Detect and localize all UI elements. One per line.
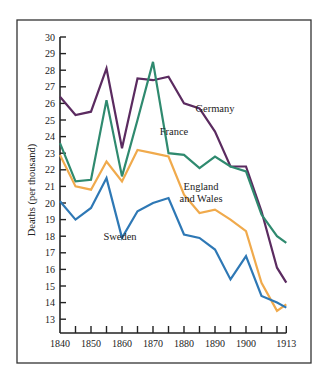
series-label-sweden: Sweden xyxy=(103,231,137,242)
x-tick-label: 1900 xyxy=(236,338,256,349)
series-label-france: France xyxy=(160,126,189,137)
series-label-england-and-wales: and Wales xyxy=(180,193,223,204)
x-tick-label: 1850 xyxy=(81,338,101,349)
y-tick-label: 26 xyxy=(45,98,55,109)
series-label-england-and-wales: England xyxy=(184,181,220,192)
x-tick-label: 1890 xyxy=(205,338,225,349)
y-tick-label: 23 xyxy=(45,148,55,159)
y-tick-label: 21 xyxy=(45,181,55,192)
x-tick-label: 1840 xyxy=(50,338,70,349)
y-tick-label: 28 xyxy=(45,65,55,76)
y-tick-label: 16 xyxy=(45,264,55,275)
y-tick-label: 17 xyxy=(45,247,55,258)
y-tick-label: 27 xyxy=(45,81,55,92)
y-tick-label: 29 xyxy=(45,48,55,59)
x-tick-label: 1870 xyxy=(143,338,163,349)
line-chart: 1314151617181920212223242526272829301840… xyxy=(0,0,327,383)
x-tick-label: 1913 xyxy=(276,338,296,349)
y-tick-label: 15 xyxy=(45,281,55,292)
y-tick-label: 20 xyxy=(45,198,55,209)
y-tick-label: 30 xyxy=(45,32,55,43)
chart-frame xyxy=(17,20,311,363)
y-tick-label: 24 xyxy=(45,131,55,142)
y-tick-label: 14 xyxy=(45,297,55,308)
y-tick-label: 13 xyxy=(45,314,55,325)
x-tick-label: 1860 xyxy=(112,338,132,349)
y-tick-label: 18 xyxy=(45,231,55,242)
series-label-germany: Germany xyxy=(195,103,235,114)
y-tick-label: 22 xyxy=(45,164,55,175)
y-tick-label: 25 xyxy=(45,115,55,126)
y-tick-label: 19 xyxy=(45,214,55,225)
y-axis-title: Deaths (per thousand) xyxy=(26,143,38,236)
x-tick-label: 1880 xyxy=(174,338,194,349)
